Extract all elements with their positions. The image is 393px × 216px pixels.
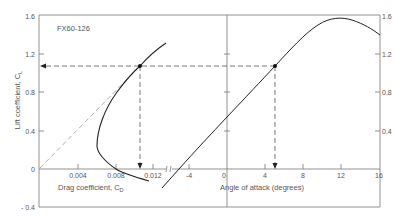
axis-break-mark — [166, 166, 167, 172]
x-tick: 8 — [301, 172, 305, 179]
operating-point-drag — [138, 64, 142, 68]
axes — [39, 15, 380, 207]
ticks — [39, 54, 380, 169]
y-tick: 0.4 — [25, 128, 35, 135]
airfoil-label: FX60-126 — [57, 24, 90, 33]
y-tick: 0.4 — [382, 128, 392, 135]
y-tick: 1.2 — [382, 51, 392, 58]
y-tick-labels-right: 1.6 1.2 0.8 0.4 — [382, 13, 392, 135]
y-tick: 0.8 — [382, 89, 392, 96]
x-tick: -4 — [186, 172, 192, 179]
x-tick: 0.004 — [69, 172, 87, 179]
y-tick: 1.6 — [382, 13, 392, 20]
x-tick-labels-drag: 0.004 0.008 0.012 — [69, 172, 162, 179]
x-axis-title-drag: Drag coefficient, CD — [58, 183, 124, 193]
x-tick: 4 — [263, 172, 267, 179]
y-tick: 0 — [31, 166, 35, 173]
y-tick-labels-left: 1.6 1.2 0.8 0.4 0 - 0.4 — [21, 13, 35, 211]
y-tick: 1.6 — [25, 13, 35, 20]
y-tick: 0.8 — [25, 89, 35, 96]
x-tick: 12 — [337, 172, 345, 179]
x-tick: 0.012 — [144, 172, 162, 179]
axis-break-mark — [170, 166, 171, 172]
arrow-left-icon — [40, 64, 46, 69]
x-tick: 0 — [222, 172, 226, 179]
airfoil-chart: 1.6 1.2 0.8 0.4 0 - 0.4 1.6 1.2 0.8 0.4 … — [0, 0, 393, 216]
arrow-down-icon — [138, 163, 143, 169]
y-axis-title: Lift coefficient, CL — [13, 71, 23, 129]
lift-curve — [162, 18, 380, 188]
x-axis-title-angle: Angle of attack (degrees) — [220, 183, 304, 192]
y-tick: 1.2 — [25, 51, 35, 58]
drag-polar-curve — [97, 43, 166, 181]
guide-lines — [40, 66, 275, 168]
x-tick: 16 — [375, 172, 383, 179]
arrowheads — [40, 64, 278, 170]
operating-point-angle — [273, 64, 277, 68]
arrow-down-icon — [273, 163, 278, 169]
x-tick-labels-angle: -4 0 4 8 12 16 — [186, 172, 383, 179]
y-tick: - 0.4 — [21, 204, 35, 211]
x-tick: 0.008 — [107, 172, 125, 179]
